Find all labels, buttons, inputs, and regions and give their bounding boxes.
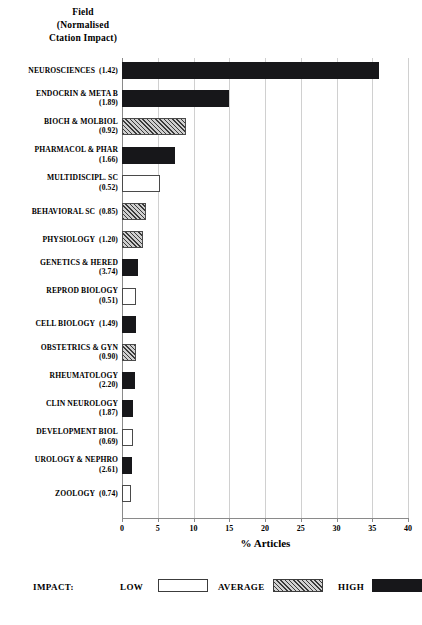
bar-low [122,429,133,446]
bar-low [122,175,160,192]
category-name: REPROD BIOLOGY [4,286,118,296]
bar-row: GENETICS & HERED(3.74) [0,259,420,287]
category-label: MULTIDISCIPL. SC(0.52) [4,173,118,192]
category-name: PHYSIOLOGY [43,235,95,244]
bar-row: PHYSIOLOGY (1.20) [0,231,420,259]
bar-row: CELL BIOLOGY (1.49) [0,316,420,344]
category-label: UROLOGY & NEPHRO(2.61) [4,455,118,474]
category-label: NEUROSCIENCES (1.42) [4,66,118,76]
chart-header: Field (Normalised Ctation Impact) [8,6,158,45]
category-label: ZOOLOGY (0.74) [4,489,118,499]
bar-high [122,259,138,276]
x-tick-0 [122,518,123,522]
x-tick-label-25: 25 [289,524,313,533]
impact-value: (1.87) [4,408,118,418]
bar-high [122,147,175,164]
category-name: CLIN NEUROLOGY [4,399,118,409]
category-name: BIOCH & MOLBIOL [4,117,118,127]
category-label: OBSTETRICS & GYN(0.90) [4,343,118,362]
impact-value: (0.74) [99,489,118,498]
category-label: CLIN NEUROLOGY(1.87) [4,399,118,418]
x-tick-label-40: 40 [396,524,420,533]
category-name: MULTIDISCIPL. SC [4,173,118,183]
header-line-1: Field [8,6,158,19]
impact-value: (1.89) [4,98,118,108]
category-name: ENDOCRIN & META B [4,89,118,99]
category-label: GENETICS & HERED(3.74) [4,258,118,277]
category-name: OBSTETRICS & GYN [4,343,118,353]
impact-value: (0.90) [4,352,118,362]
category-label: ENDOCRIN & META B(1.89) [4,89,118,108]
x-tick-40 [408,518,409,522]
header-line-3: Ctation Impact) [8,32,158,45]
category-name: GENETICS & HERED [4,258,118,268]
x-tick-30 [337,518,338,522]
category-name: PHARMACOL & PHAR [4,145,118,155]
legend-item-high: HIGH [0,578,420,598]
x-tick-label-15: 15 [217,524,241,533]
bar-row: MULTIDISCIPL. SC(0.52) [0,175,420,203]
impact-value: (1.66) [4,155,118,165]
category-name: DEVELOPMENT BIOL [4,427,118,437]
x-axis-title: % Articles [122,537,409,549]
bar-average [122,118,186,135]
category-label: PHYSIOLOGY (1.20) [4,235,118,245]
bar-row: UROLOGY & NEPHRO(2.61) [0,457,420,485]
x-tick-5 [158,518,159,522]
category-label: PHARMACOL & PHAR(1.66) [4,145,118,164]
bar-average [122,231,143,248]
x-tick-label-20: 20 [253,524,277,533]
bar-average [122,344,136,361]
x-tick-label-5: 5 [146,524,170,533]
impact-value: (0.51) [4,296,118,306]
x-tick-10 [194,518,195,522]
category-name: UROLOGY & NEPHRO [4,455,118,465]
bar-row: ENDOCRIN & META B(1.89) [0,90,420,118]
category-name: NEUROSCIENCES [28,66,95,75]
impact-value: (1.20) [99,235,118,244]
impact-value: (2.20) [4,380,118,390]
x-tick-25 [301,518,302,522]
bar-row: NEUROSCIENCES (1.42) [0,62,420,90]
x-tick-20 [265,518,266,522]
category-name: ZOOLOGY [55,489,95,498]
bar-row: BIOCH & MOLBIOL(0.92) [0,118,420,146]
x-tick-label-0: 0 [110,524,134,533]
impact-value: (2.61) [4,465,118,475]
bar-row: OBSTETRICS & GYN(0.90) [0,344,420,372]
legend-label-high: HIGH [338,582,364,592]
bar-low [122,485,131,502]
x-tick-35 [372,518,373,522]
bar-row: BEHAVIORAL SC (0.85) [0,203,420,231]
bar-average [122,203,146,220]
x-tick-15 [229,518,230,522]
bar-high [122,316,136,333]
bar-row: ZOOLOGY (0.74) [0,485,420,513]
impact-value: (0.52) [4,183,118,193]
header-line-2: (Normalised [8,19,158,32]
category-name: BEHAVIORAL SC [32,207,95,216]
legend: IMPACT: LOWAVERAGEHIGH [0,578,420,602]
x-tick-label-30: 30 [325,524,349,533]
bar-row: REPROD BIOLOGY(0.51) [0,288,420,316]
bar-high [122,400,133,417]
category-name: RHEUMATOLOGY [4,371,118,381]
x-tick-label-35: 35 [360,524,384,533]
category-label: DEVELOPMENT BIOL(0.69) [4,427,118,446]
category-name: CELL BIOLOGY [35,319,95,328]
legend-swatch-high [372,579,422,592]
impact-value: (1.42) [99,66,118,75]
bar-high [122,62,379,79]
bar-row: DEVELOPMENT BIOL(0.69) [0,429,420,457]
bar-low [122,288,136,305]
impact-value: (3.74) [4,267,118,277]
impact-value: (0.92) [4,126,118,136]
x-tick-label-10: 10 [182,524,206,533]
impact-value: (0.85) [99,207,118,216]
bar-high [122,457,132,474]
category-label: CELL BIOLOGY (1.49) [4,319,118,329]
bar-high [122,372,135,389]
impact-value: (1.49) [99,319,118,328]
category-label: RHEUMATOLOGY(2.20) [4,371,118,390]
